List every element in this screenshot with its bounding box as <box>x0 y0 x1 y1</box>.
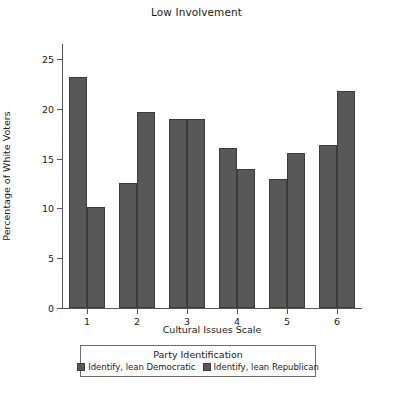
x-axis-title: Cultural Issues Scale <box>62 324 362 335</box>
y-tick-mark <box>57 109 62 110</box>
bar <box>169 119 187 308</box>
y-tick-mark <box>57 208 62 209</box>
y-axis-spine <box>62 44 63 309</box>
bar <box>219 148 237 308</box>
y-tick-label: 5 <box>48 253 54 264</box>
bar <box>187 119 205 308</box>
legend-swatch-icon <box>77 363 85 371</box>
legend: Party Identification Identify, lean Demo… <box>80 345 316 377</box>
y-axis-title: Percentage of White Voters <box>1 111 12 240</box>
y-tick-label: 10 <box>42 203 54 214</box>
bar <box>87 207 105 308</box>
chart-title: Low Involvement <box>0 6 393 18</box>
legend-entry: Identify, lean Democratic <box>77 362 195 372</box>
y-tick-mark <box>57 59 62 60</box>
bar <box>269 179 287 309</box>
bar <box>69 77 87 308</box>
y-tick-mark <box>57 258 62 259</box>
bar <box>237 169 255 308</box>
bar <box>337 91 355 308</box>
x-tick-mark <box>337 309 338 314</box>
legend-title: Party Identification <box>85 349 311 362</box>
bar <box>319 145 337 308</box>
legend-entries: Identify, lean DemocraticIdentify, lean … <box>85 362 311 372</box>
bar <box>119 183 137 308</box>
y-tick-label: 15 <box>42 153 54 164</box>
plot-area: 0510152025 123456 <box>62 44 362 309</box>
y-tick-label: 0 <box>48 303 54 314</box>
x-tick-mark <box>87 309 88 314</box>
legend-entry: Identify, lean Republican <box>203 362 319 372</box>
legend-label: Identify, lean Republican <box>214 362 319 372</box>
legend-swatch-icon <box>203 363 211 371</box>
x-tick-mark <box>187 309 188 314</box>
y-tick-mark <box>57 308 62 309</box>
y-tick-label: 25 <box>42 53 54 64</box>
legend-label: Identify, lean Democratic <box>88 362 195 372</box>
x-tick-mark <box>287 309 288 314</box>
x-tick-mark <box>137 309 138 314</box>
y-tick-mark <box>57 159 62 160</box>
y-tick-label: 20 <box>42 103 54 114</box>
bar <box>137 112 155 308</box>
x-tick-mark <box>237 309 238 314</box>
x-axis-spine <box>62 308 362 309</box>
chart-figure: Low Involvement 0510152025 123456 Percen… <box>0 0 393 397</box>
bar <box>287 153 305 308</box>
